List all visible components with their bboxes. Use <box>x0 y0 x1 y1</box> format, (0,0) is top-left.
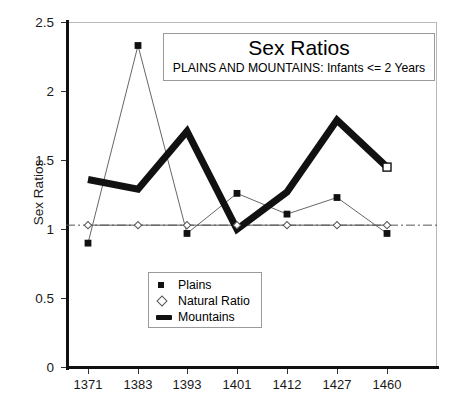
legend-marker-thickline-icon <box>156 315 178 320</box>
legend-label-plains: Plains <box>178 278 212 292</box>
x-tick-label-1401: 1401 <box>223 377 252 392</box>
chart-title-box: Sex Ratios PLAINS AND MOUNTAINS: Infants… <box>163 33 435 81</box>
x-tick-label-1383: 1383 <box>124 377 153 392</box>
legend-item-mountains: Mountains <box>156 309 261 325</box>
x-tick-label-1371: 1371 <box>74 377 103 392</box>
x-tick-label-1412: 1412 <box>273 377 302 392</box>
x-tick-label-1460: 1460 <box>373 377 402 392</box>
y-axis-title: Sex Ratios <box>31 133 46 253</box>
legend-label-natural-ratio: Natural Ratio <box>178 294 250 308</box>
y-tick-label-2-5: 2.5 <box>35 15 54 30</box>
y-tick-label-2: 2 <box>46 84 54 99</box>
legend-marker-diamond-icon <box>156 297 178 305</box>
chart-legend: Plains Natural Ratio Mountains <box>148 272 262 328</box>
legend-item-plains: Plains <box>156 277 261 293</box>
y-tick-label-0-5: 0.5 <box>35 291 54 306</box>
y-tick-label-0: 0 <box>46 360 54 375</box>
x-tick-label-1427: 1427 <box>323 377 352 392</box>
chart-subtitle: PLAINS AND MOUNTAINS: Infants <= 2 Years <box>169 61 429 76</box>
y-axis-line <box>66 20 69 370</box>
legend-item-natural-ratio: Natural Ratio <box>156 293 261 309</box>
sex-ratios-line-chart: 2.5 2 1.5 1 0.5 0 Sex Ratios 1371 1383 1… <box>0 0 459 409</box>
legend-marker-square-icon <box>156 282 178 288</box>
y-axis-tick-labels: 2.5 2 1.5 1 0.5 0 <box>0 0 58 409</box>
x-tick-label-1393: 1393 <box>173 377 202 392</box>
legend-label-mountains: Mountains <box>178 310 235 324</box>
x-axis-line <box>66 366 439 369</box>
chart-title: Sex Ratios <box>169 36 429 60</box>
y-tick-label-1: 1 <box>46 222 54 237</box>
